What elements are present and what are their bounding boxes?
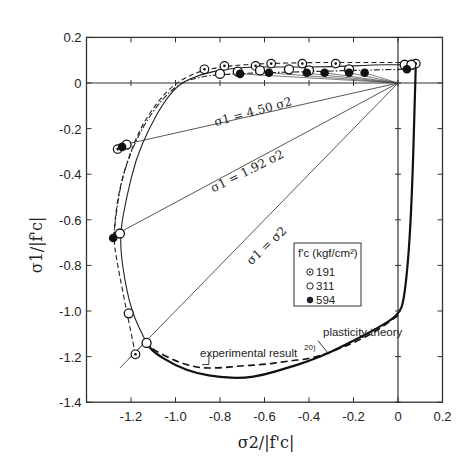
y-tick-label: -1.0 (59, 304, 81, 319)
y-tick-label: 0 (74, 76, 81, 91)
annotation-experimental-result: experimental result (200, 347, 298, 359)
legend-label-594: 594 (316, 294, 336, 306)
marker-594 (109, 234, 118, 243)
x-tick-label: -1.0 (164, 409, 186, 424)
y-tick-label: -0.2 (59, 122, 81, 137)
x-tick-label: 0.2 (433, 409, 451, 424)
chart: σ1 = 4.50 σ2σ1 = 1.92 σ2σ1 = σ2 -1.2-1.0… (0, 0, 471, 476)
y-axis-title: σ1/|f'c| (27, 217, 46, 274)
marker-594 (320, 68, 329, 77)
marker-594 (345, 68, 354, 77)
marker-311 (124, 309, 133, 318)
y-tick-label: -1.2 (59, 350, 81, 365)
marker-311 (216, 69, 225, 78)
legend-label-191: 191 (316, 266, 335, 278)
legend-marker-311 (307, 283, 313, 289)
marker-594 (265, 68, 274, 77)
x-axis-title: σ2/|f'c| (238, 433, 295, 452)
radial-line-label: σ1 = 1.92 σ2 (208, 147, 286, 195)
y-tick-label: -1.4 (59, 395, 81, 410)
y-tick-label: -0.4 (59, 167, 81, 182)
x-tick-label: -0.4 (298, 409, 320, 424)
legend: f'c (kgf/cm²) 191 311 594 (294, 243, 361, 306)
legend-marker-191-dot (309, 271, 311, 273)
marker-311 (284, 65, 293, 74)
x-tick-label: -0.6 (253, 409, 275, 424)
marker-311 (256, 66, 265, 75)
x-tick-label: -0.2 (342, 409, 364, 424)
series-curve (147, 316, 398, 368)
radial-line-label: σ1 = σ2 (244, 224, 290, 268)
radial-lines: σ1 = 4.50 σ2σ1 = 1.92 σ2σ1 = σ2 (118, 73, 398, 368)
marker-594 (236, 70, 245, 79)
legend-label-311: 311 (316, 280, 334, 292)
marker-594 (360, 68, 369, 77)
annotation-plasticity-theory: plasticity theory (323, 326, 403, 338)
legend-marker-594 (307, 297, 313, 303)
legend-title: f'c (kgf/cm²) (298, 247, 358, 259)
marker-594 (118, 143, 127, 152)
x-tick-label: 0 (394, 409, 401, 424)
series-curve (113, 69, 413, 238)
y-tick-label: -0.6 (59, 213, 81, 228)
annotation-experimental-ref: 20) (304, 343, 316, 352)
radial-line-label: σ1 = 4.50 σ2 (213, 94, 294, 129)
marker-594 (302, 68, 311, 77)
marker-594 (403, 65, 412, 74)
radial-line (129, 83, 398, 359)
marker-311 (142, 338, 151, 347)
y-tick-label: -0.8 (59, 258, 81, 273)
axis-ticks: -1.2-1.0-0.8-0.6-0.4-0.200.20.20-0.2-0.4… (59, 30, 451, 424)
x-tick-label: -0.8 (209, 409, 231, 424)
y-tick-label: 0.2 (63, 30, 81, 45)
x-tick-label: -1.2 (120, 409, 142, 424)
